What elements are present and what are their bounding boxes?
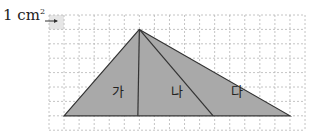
svg-text:가: 가 [112,84,124,99]
area-diagram: 가나다 [0,0,310,134]
unit-cell-highlight [49,15,64,29]
svg-text:나: 나 [171,84,183,99]
svg-text:다: 다 [231,84,243,99]
